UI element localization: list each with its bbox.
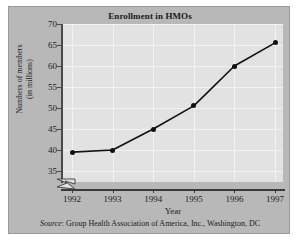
y-axis-line	[61, 24, 63, 183]
axis-break-icon	[55, 178, 77, 192]
gridline-vertical	[113, 25, 114, 182]
gridline-vertical	[153, 25, 154, 182]
data-point-marker	[70, 150, 75, 155]
source-text: : Group Health Association of America, I…	[62, 219, 260, 228]
x-axis-tick-label: 1993	[93, 194, 133, 204]
y-axis-tick	[57, 45, 62, 46]
x-axis-tick-label: 1992	[52, 194, 92, 204]
x-axis-tick	[275, 190, 276, 193]
x-axis-line	[61, 189, 285, 191]
y-axis-tick	[57, 108, 62, 109]
gridline-horizontal	[61, 150, 283, 151]
source-label: Source	[40, 219, 62, 228]
x-axis-tick-label: 1997	[255, 194, 295, 204]
gridline-horizontal	[61, 171, 283, 172]
x-axis-tick	[113, 190, 114, 193]
x-axis-label: Year	[61, 206, 285, 216]
x-axis-tick-label: 1995	[174, 194, 214, 204]
y-axis-tick	[57, 129, 62, 130]
plot-area	[61, 25, 283, 182]
x-axis-tick-label: 1994	[133, 194, 173, 204]
gridline-horizontal	[61, 129, 283, 130]
y-axis-label: Numbers of members (in millions)	[15, 24, 35, 134]
y-axis-label-line1: Numbers of members	[15, 24, 25, 134]
gridline-vertical	[72, 25, 73, 182]
y-axis-tick	[57, 87, 62, 88]
gridline-horizontal	[61, 66, 283, 67]
data-point-marker	[273, 40, 278, 45]
y-axis-tick	[57, 24, 62, 25]
y-axis-tick	[57, 171, 62, 172]
data-point-marker	[232, 64, 237, 69]
x-axis-tick-label: 1996	[214, 194, 254, 204]
x-axis-tick	[234, 190, 235, 193]
data-point-marker	[151, 127, 156, 132]
gridline-vertical	[234, 25, 235, 182]
gridline-horizontal	[61, 87, 283, 88]
gridline-horizontal	[61, 45, 283, 46]
y-axis-tick-label: 40	[23, 145, 57, 155]
gridline-vertical	[275, 25, 276, 182]
x-axis-tick	[194, 190, 195, 193]
data-point-marker	[110, 148, 115, 153]
x-axis-tick	[153, 190, 154, 193]
y-axis-tick	[57, 66, 62, 67]
source-caption: Source: Group Health Association of Amer…	[9, 219, 291, 228]
y-axis-tick-label: 35	[23, 166, 57, 176]
chart-figure: Enrollment in HMOs 3540455055606570 1992…	[8, 6, 290, 234]
gridline-horizontal	[61, 24, 283, 25]
y-axis-label-line2: (in millions)	[25, 24, 35, 134]
gridline-horizontal	[61, 108, 283, 109]
y-axis-tick	[57, 150, 62, 151]
